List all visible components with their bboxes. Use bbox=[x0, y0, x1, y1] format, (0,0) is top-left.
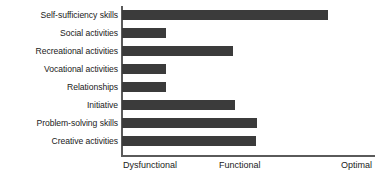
category-label-relationships: Relationships bbox=[0, 82, 118, 92]
category-label-social-activities: Social activities bbox=[0, 28, 118, 38]
bar-social-activities bbox=[122, 28, 166, 38]
x-tick-label-dysfunctional: Dysfunctional bbox=[123, 160, 177, 171]
x-tick-label-functional: Functional bbox=[219, 160, 261, 171]
category-label-creative-activities: Creative activities bbox=[0, 136, 118, 146]
category-label-vocational-activities: Vocational activities bbox=[0, 64, 118, 74]
bar-problem-solving-skills bbox=[122, 118, 257, 128]
bar-recreational-activities bbox=[122, 46, 233, 56]
bar-relationships bbox=[122, 82, 166, 92]
x-axis-tick-labels: Dysfunctional Functional Optimal bbox=[0, 160, 392, 180]
category-label-self-sufficiency-skills: Self-sufficiency skills bbox=[0, 10, 118, 20]
bar-self-sufficiency-skills bbox=[122, 10, 328, 20]
bar-chart: Self-sufficiency skills Social activitie… bbox=[0, 0, 392, 187]
bar-vocational-activities bbox=[122, 64, 166, 74]
category-label-recreational-activities: Recreational activities bbox=[0, 46, 118, 56]
x-tick-label-optimal: Optimal bbox=[341, 160, 372, 171]
bar-initiative bbox=[122, 100, 235, 110]
category-axis-labels: Self-sufficiency skills Social activitie… bbox=[0, 0, 118, 155]
bar-creative-activities bbox=[122, 136, 256, 146]
category-label-initiative: Initiative bbox=[0, 100, 118, 110]
category-label-problem-solving-skills: Problem-solving skills bbox=[0, 118, 118, 128]
plot-area bbox=[122, 8, 375, 156]
x-axis-line bbox=[121, 155, 375, 157]
